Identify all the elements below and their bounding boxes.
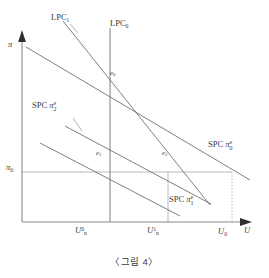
x-tick-u-n-zero: U0n	[75, 226, 87, 235]
curve-label-spc-pi-e-1: SPC πe1	[169, 194, 194, 207]
y-axis-label: π	[8, 40, 12, 49]
x-tick-u-n-one: U1n	[147, 226, 159, 235]
figure-caption: 〈그림 4〉	[0, 254, 269, 268]
point-label-e-zero: e0	[110, 70, 115, 77]
curve-label-lpc-1: LPC1	[51, 13, 69, 22]
spc-pi-e-0-curve	[26, 47, 250, 180]
x-axis-label: U	[244, 226, 250, 235]
axes-group	[18, 30, 252, 226]
guide-lines	[22, 172, 232, 222]
y-tick-pi-zero: π0	[6, 163, 13, 172]
label-leader-lines	[70, 24, 82, 131]
curve-label-spc-pi-e-2: SPC πe2	[32, 100, 57, 113]
point-label-e-one: e1	[96, 150, 101, 157]
curve-label-lpc-0: LPC0	[110, 19, 128, 28]
curve-label-spc-pi-e-0: SPC πe0	[208, 139, 233, 152]
x-tick-u-zero: U0	[218, 227, 227, 236]
spc-e2-leader	[73, 118, 82, 131]
point-label-e-two: e2	[162, 150, 167, 157]
spc-pi-e-2-curve	[65, 126, 211, 204]
figure-4-phillips-curve-diagram: π U π0 U0n U1n U0 LPC1 LPC0 SPC πe2 SPC …	[0, 0, 269, 278]
y-axis-arrowhead	[18, 30, 26, 42]
